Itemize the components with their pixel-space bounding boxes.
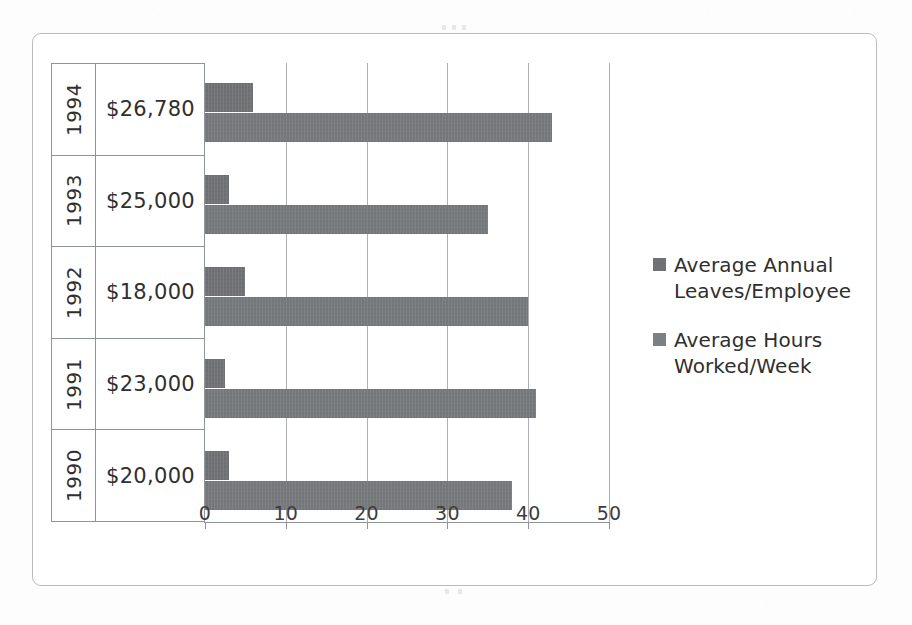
category-row: 1990 $20,000	[52, 430, 205, 521]
bar-average-annual-leaves[interactable]	[205, 267, 245, 296]
category-baseline	[204, 522, 609, 523]
category-axis: 1994 $26,780 1993 $25,000 1992 $18,000 1…	[51, 63, 205, 522]
axis-tick-label: 20	[354, 502, 379, 524]
selection-handle-top-3[interactable]	[462, 25, 466, 30]
chart-legend: Average Annual Leaves/Employee Average H…	[653, 252, 863, 402]
bar-average-hours-worked[interactable]	[205, 389, 536, 418]
category-year-label: 1993	[62, 174, 86, 227]
category-year-label: 1994	[62, 83, 86, 136]
page-background: 1994 $26,780 1993 $25,000 1992 $18,000 1…	[0, 0, 912, 625]
category-row: 1991 $23,000	[52, 339, 205, 431]
chart-object-frame[interactable]: 1994 $26,780 1993 $25,000 1992 $18,000 1…	[32, 33, 877, 586]
bar-average-hours-worked[interactable]	[205, 113, 552, 142]
axis-tick-label: 30	[435, 502, 460, 524]
legend-item[interactable]: Average Annual Leaves/Employee	[653, 252, 863, 305]
bar-average-annual-leaves[interactable]	[205, 83, 253, 112]
axis-tick-label: 0	[199, 502, 211, 524]
category-salary-label: $23,000	[96, 372, 205, 396]
category-year-cell: 1994	[52, 64, 96, 155]
category-row: 1992 $18,000	[52, 247, 205, 339]
selection-handle-top-2[interactable]	[452, 25, 456, 30]
bar-average-hours-worked[interactable]	[205, 297, 528, 326]
legend-swatch-icon	[653, 333, 666, 346]
category-year-label: 1991	[62, 358, 86, 411]
selection-handle-bottom-1[interactable]	[445, 589, 449, 594]
axis-tick-label: 10	[274, 502, 299, 524]
category-salary-label: $18,000	[96, 280, 205, 304]
category-year-label: 1992	[62, 266, 86, 319]
category-row: 1994 $26,780	[52, 64, 205, 156]
axis-tick-label: 40	[516, 502, 541, 524]
gridline	[609, 63, 610, 522]
bar-average-hours-worked[interactable]	[205, 205, 488, 234]
selection-handle-bottom-2[interactable]	[458, 589, 462, 594]
category-salary-label: $20,000	[96, 464, 205, 488]
category-salary-label: $25,000	[96, 189, 205, 213]
category-row: 1993 $25,000	[52, 156, 205, 248]
plot-area	[205, 63, 609, 522]
category-year-cell: 1993	[52, 156, 96, 247]
category-year-cell: 1990	[52, 430, 96, 521]
bar-average-annual-leaves[interactable]	[205, 451, 229, 480]
bar-average-annual-leaves[interactable]	[205, 359, 225, 388]
legend-label-line1: Average Annual	[674, 253, 833, 277]
legend-label-line1: Average Hours	[674, 328, 822, 352]
category-salary-label: $26,780	[96, 97, 205, 121]
legend-item[interactable]: Average Hours Worked/Week	[653, 327, 863, 380]
category-year-label: 1990	[62, 449, 86, 502]
category-year-cell: 1992	[52, 247, 96, 338]
legend-label-line2: Leaves/Employee	[674, 279, 851, 303]
category-year-cell: 1991	[52, 339, 96, 430]
bar-average-annual-leaves[interactable]	[205, 175, 229, 204]
legend-swatch-icon	[653, 258, 666, 271]
legend-item-label: Average Annual Leaves/Employee	[674, 252, 851, 305]
legend-item-label: Average Hours Worked/Week	[674, 327, 822, 380]
legend-label-line2: Worked/Week	[674, 354, 812, 378]
selection-handle-top-1[interactable]	[442, 25, 446, 30]
axis-tick-label: 50	[597, 502, 622, 524]
